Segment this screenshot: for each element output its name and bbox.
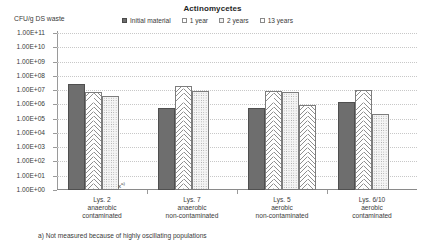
y-axis-line bbox=[57, 31, 58, 190]
x-axis-category-label: Lys. 2anaerobiccontaminated bbox=[57, 196, 147, 221]
category-label-line: Lys. 6/10 bbox=[327, 196, 417, 204]
legend-item-initial-material: Initial material bbox=[122, 17, 171, 24]
y-axis-tick-label: 1.00E+00 bbox=[0, 186, 45, 193]
y-axis-tick-label: 1.00E+02 bbox=[0, 157, 45, 164]
y-axis-tick-label: 1.00E+01 bbox=[0, 172, 45, 179]
legend-swatch-13-years-icon bbox=[260, 18, 265, 23]
y-axis-tick-label: 1.00E+07 bbox=[0, 86, 45, 93]
gridline bbox=[57, 33, 417, 34]
legend-item-13-years: 13 years bbox=[260, 17, 293, 24]
category-label-line: contaminated bbox=[327, 212, 417, 220]
bar-initial-material bbox=[338, 102, 355, 190]
bar-initial-material bbox=[158, 108, 175, 190]
bar-1-year bbox=[85, 92, 102, 190]
legend-swatch-1-year-icon bbox=[182, 18, 187, 23]
category-label-line: non-contaminated bbox=[147, 212, 237, 220]
x-axis-category-label: Lys. 5aerobicnon-contaminated bbox=[237, 196, 327, 221]
y-axis-tick bbox=[53, 133, 57, 134]
y-axis-tick bbox=[53, 90, 57, 91]
legend-swatch-initial-material-icon bbox=[122, 18, 127, 23]
x-axis-category-labels: Lys. 2anaerobiccontaminatedLys. 7anaerob… bbox=[57, 196, 417, 230]
chart-footnote: a) Not measured because of highly oscill… bbox=[38, 232, 207, 239]
plot-area: 1.00E+111.00E+101.00E+091.00E+081.00E+07… bbox=[57, 33, 417, 190]
y-axis-tick-label: 1.00E+11 bbox=[0, 29, 45, 36]
category-label-line: Lys. 2 bbox=[57, 196, 147, 204]
category-label-line: anaerobic bbox=[57, 204, 147, 212]
gridline bbox=[57, 76, 417, 77]
y-axis-tick bbox=[53, 119, 57, 120]
legend-label-13-years: 13 years bbox=[268, 17, 293, 24]
chart-title: Actinomycetes bbox=[0, 4, 425, 13]
not-measured-marker: xa) bbox=[118, 181, 125, 189]
category-label-line: Lys. 5 bbox=[237, 196, 327, 204]
legend-label-initial-material: Initial material bbox=[130, 17, 171, 24]
y-axis-tick-label: 1.00E+03 bbox=[0, 143, 45, 150]
y-axis-tick bbox=[53, 176, 57, 177]
category-separator bbox=[237, 190, 238, 194]
x-axis-category-label: Lys. 6/10aerobiccontaminated bbox=[327, 196, 417, 221]
y-axis-tick bbox=[53, 62, 57, 63]
category-label-line: anaerobic bbox=[147, 204, 237, 212]
y-axis-tick bbox=[53, 147, 57, 148]
gridline bbox=[57, 62, 417, 63]
chart-legend: Initial material 1 year 2 years 13 years bbox=[122, 17, 293, 24]
legend-item-2-years: 2 years bbox=[219, 17, 249, 24]
legend-label-1-year: 1 year bbox=[190, 17, 208, 24]
y-axis-tick-label: 1.00E+10 bbox=[0, 43, 45, 50]
y-axis-tick bbox=[53, 190, 57, 191]
y-axis-tick-label: 1.00E+06 bbox=[0, 100, 45, 107]
category-separator bbox=[147, 190, 148, 194]
category-label-line: non-contaminated bbox=[237, 212, 327, 220]
category-label-line: Lys. 7 bbox=[147, 196, 237, 204]
bar-1-year bbox=[175, 86, 192, 190]
bar-1-year bbox=[265, 91, 282, 190]
y-axis-tick-label: 1.00E+09 bbox=[0, 58, 45, 65]
category-label-line: aerobic bbox=[327, 204, 417, 212]
y-axis-tick bbox=[53, 33, 57, 34]
bar-13-years bbox=[299, 105, 316, 190]
y-axis-tick-label: 1.00E+05 bbox=[0, 115, 45, 122]
legend-label-2-years: 2 years bbox=[227, 17, 249, 24]
y-axis-title: CFU/g DS waste bbox=[14, 15, 65, 22]
bar-initial-material bbox=[248, 108, 265, 190]
y-axis-tick-label: 1.00E+08 bbox=[0, 72, 45, 79]
category-label-line: contaminated bbox=[57, 212, 147, 220]
y-axis-tick bbox=[53, 161, 57, 162]
y-axis-tick bbox=[53, 47, 57, 48]
category-separator bbox=[327, 190, 328, 194]
bar-2-years bbox=[282, 92, 299, 190]
y-axis-tick bbox=[53, 104, 57, 105]
category-label-line: aerobic bbox=[237, 204, 327, 212]
y-axis-tick-label: 1.00E+04 bbox=[0, 129, 45, 136]
bar-2-years bbox=[372, 114, 389, 190]
bar-initial-material bbox=[68, 84, 85, 190]
y-axis-tick bbox=[53, 76, 57, 77]
x-axis-category-label: Lys. 7anaerobicnon-contaminated bbox=[147, 196, 237, 221]
bar-1-year bbox=[355, 90, 372, 190]
bar-2-years bbox=[192, 91, 209, 190]
legend-swatch-2-years-icon bbox=[219, 18, 224, 23]
legend-item-1-year: 1 year bbox=[182, 17, 208, 24]
gridline bbox=[57, 47, 417, 48]
bar-2-years bbox=[102, 96, 119, 190]
